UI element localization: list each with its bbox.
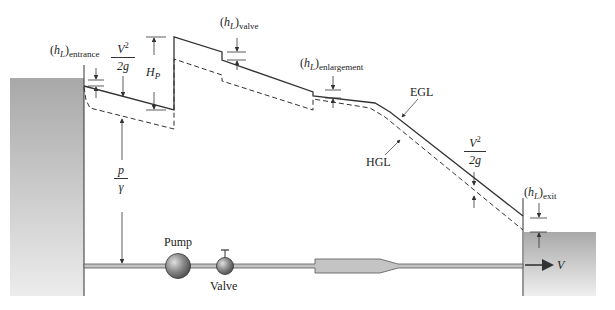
pump-label: Pump	[164, 236, 192, 248]
entrance-loss-label: (hL)entrance	[50, 44, 100, 59]
egl-leader	[402, 99, 418, 117]
valve-icon	[217, 250, 234, 275]
enlargement-loss-label: (hL)enlargement	[300, 57, 363, 72]
downstream-reservoir	[523, 198, 596, 296]
valve-loss-label: (hL)valve	[220, 16, 259, 31]
hgl-leader	[385, 140, 400, 155]
hydraulic-grade-line	[84, 59, 523, 230]
pressure-head-label: p γ	[114, 164, 128, 193]
entrance-loss-dimension	[88, 68, 104, 98]
enlargement-loss-dimension	[325, 76, 341, 108]
upstream-reservoir	[10, 65, 84, 296]
velocity-label: V	[557, 259, 564, 271]
pump-icon	[166, 254, 191, 279]
hgl-label: HGL	[366, 156, 391, 168]
pipe	[84, 259, 523, 273]
egl-label: EGL	[410, 86, 433, 98]
velocity-head-downstream: V2 2g	[464, 136, 486, 166]
energy-grade-line-diagram: (hL)entrance V2 2g HP (hL)valve (hL)enla…	[0, 0, 615, 310]
exit-loss-label: (hL)exit	[524, 186, 557, 201]
pump-head-label: HP	[146, 66, 160, 81]
velocity-head-upstream: V2 2g	[111, 42, 135, 72]
valve-label: Valve	[210, 280, 237, 292]
